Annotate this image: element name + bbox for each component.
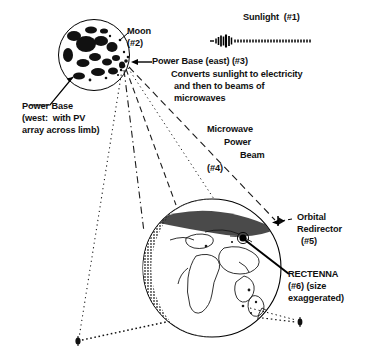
rectenna-line2: (#6) (size <box>288 281 326 292</box>
moon-graphic <box>51 20 130 91</box>
sunlight-label: Sunlight (#1) <box>243 12 300 23</box>
moon-label-line2: (#2) <box>127 38 143 49</box>
earth-graphic <box>126 199 281 339</box>
microwave-beam-line2: Power <box>224 137 251 148</box>
power-base-east-desc-line1: Converts sunlight to electricity <box>171 69 303 80</box>
microwave-beam-line3: Beam <box>240 150 265 161</box>
microwave-beam-line1: Microwave <box>207 124 253 135</box>
satellite-bottom-left <box>75 336 80 346</box>
orbital-redirector-line3: (#5) <box>301 236 317 247</box>
microwave-beam-line4: (#4) <box>207 163 223 174</box>
power-base-east-leader <box>131 59 152 65</box>
power-base-east-desc-line3: microwaves <box>174 93 226 104</box>
power-base-west-line3: array across limb) <box>22 125 99 136</box>
rectenna-line1: RECTENNA <box>288 269 338 280</box>
satellite-bottom-right <box>298 317 303 327</box>
power-base-west-line1: Power Base <box>22 101 73 112</box>
sunlight-wave-icon <box>210 35 310 48</box>
orbital-redirector-line1: Orbital <box>297 212 326 223</box>
diagram-canvas: Sunlight (#1) Moon (#2) Power Base (east… <box>0 0 368 355</box>
moon-label-line1: Moon <box>127 26 151 37</box>
orbital-redirector-line2: Redirector <box>297 224 342 235</box>
power-base-west-line2: (west: with PV <box>22 113 85 124</box>
rectenna-line3: exaggerated) <box>288 293 344 304</box>
power-base-east-heading: Power Base (east) (#3) <box>152 56 248 67</box>
power-base-east-desc-line2: and then to beams of <box>174 81 264 92</box>
